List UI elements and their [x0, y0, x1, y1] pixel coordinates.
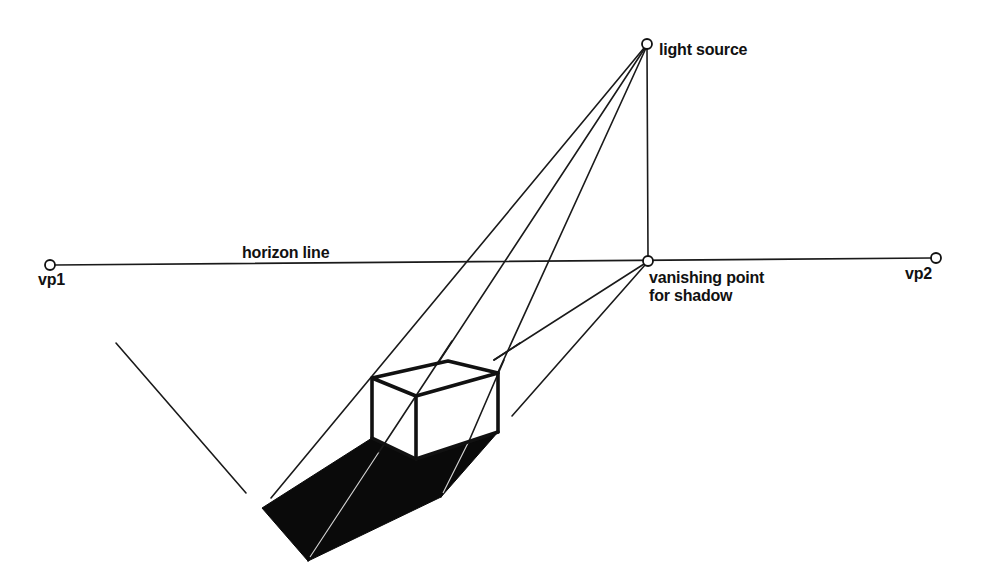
vp1-point [45, 260, 55, 270]
shadow-vp-label-line2: for shadow [649, 287, 732, 304]
construction-line-left [116, 343, 246, 493]
light-source-label: light source [659, 41, 747, 58]
light-source-point [642, 39, 652, 49]
vp2-label: vp2 [905, 265, 932, 282]
shadow-vanishing-point [643, 256, 653, 266]
shadow-vp-line-upper-near-box [494, 343, 520, 360]
shadow-vp-label-line1: vanishing point [649, 269, 764, 286]
horizon-line-label: horizon line [242, 244, 329, 261]
vp2-point [931, 253, 941, 263]
light-vertical-line [647, 49, 648, 256]
shadow-vp-line-lower [512, 265, 645, 416]
horizon-line [55, 258, 931, 265]
perspective-shadow-diagram [0, 0, 986, 587]
vp1-label: vp1 [38, 271, 65, 288]
